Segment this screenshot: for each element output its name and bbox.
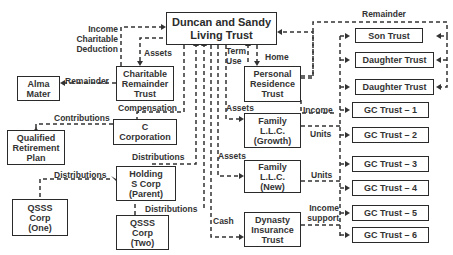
node-label: Daughter Trust <box>362 55 426 65</box>
edge-label-distributions-holding: Distributions <box>132 152 184 162</box>
node-label: QSSS Corp (Two) <box>130 218 155 248</box>
node-gc-trust-3: GC Trust – 3 <box>352 156 429 172</box>
node-label: Dynasty Insurance Trust <box>251 215 294 245</box>
node-gc-trust-2: GC Trust – 2 <box>352 127 429 143</box>
node-label: Qualified Retirement Plan <box>12 133 59 163</box>
edge-label-distributions-two: Distributions <box>145 204 197 214</box>
edge-label-assets-new: Assets <box>218 151 246 161</box>
node-qsss-corp-one: QSSS Corp (One) <box>12 199 68 236</box>
node-family-llc-growth: Family L.L.C. (Growth) <box>244 113 301 148</box>
edge-label-assets-growth: Assets <box>226 103 254 113</box>
node-label: GC Trust – 1 <box>364 105 417 115</box>
node-label: GC Trust – 2 <box>364 130 417 140</box>
node-gc-trust-6: GC Trust – 6 <box>352 227 429 243</box>
edge-label-units-growth: Units <box>310 129 331 139</box>
node-label: Alma Mater <box>26 79 50 99</box>
edge-label-cash: Cash <box>213 216 234 226</box>
node-c-corporation: C Corporation <box>113 119 177 145</box>
node-personal-residence-trust: Personal Residence Trust <box>244 66 301 102</box>
node-label: C Corporation <box>119 122 171 142</box>
node-label: Daughter Trust <box>362 82 426 92</box>
edge-label-assets-crt: Assets <box>144 48 172 58</box>
edge-label-remainder-alma: Remainder <box>65 76 109 86</box>
node-label: GC Trust – 3 <box>364 159 417 169</box>
node-family-llc-new: Family L.L.C. (New) <box>244 160 301 193</box>
edge-label-income-charitable-deduction: Income Charitable Deduction <box>70 24 118 54</box>
edge-label-home: Home <box>265 52 289 62</box>
node-label: Duncan and Sandy Living Trust <box>172 16 271 42</box>
edge-label-contributions: Contributions <box>54 113 110 123</box>
node-living-trust: Duncan and Sandy Living Trust <box>166 12 277 45</box>
node-daughter-trust-2: Daughter Trust <box>355 79 434 95</box>
node-label: GC Trust – 6 <box>364 230 417 240</box>
node-label: Holding S Corp (Parent) <box>129 169 163 199</box>
node-label: Personal Residence Trust <box>250 69 295 99</box>
node-son-trust: Son Trust <box>355 28 423 43</box>
node-label: Family L.L.C. (New) <box>258 162 287 192</box>
node-holding-s-corp: Holding S Corp (Parent) <box>116 166 176 201</box>
edge-label-distributions-one: Distributions <box>54 170 106 180</box>
node-qsss-corp-two: QSSS Corp (Two) <box>116 215 169 250</box>
node-qualified-retirement-plan: Qualified Retirement Plan <box>7 130 65 165</box>
node-dynasty-insurance-trust: Dynasty Insurance Trust <box>244 212 301 247</box>
node-gc-trust-4: GC Trust – 4 <box>352 180 429 196</box>
node-charitable-remainder-trust: Charitable Remainder Trust <box>116 66 174 101</box>
edge-label-units-new: Units <box>311 170 332 180</box>
node-label: GC Trust – 5 <box>364 208 417 218</box>
edge-label-income-prt: Income <box>303 105 333 115</box>
node-label: QSSS Corp (One) <box>27 203 52 233</box>
node-label: Charitable Remainder Trust <box>122 69 169 99</box>
node-label: Son Trust <box>368 31 410 41</box>
node-label: Family L.L.C. (Growth) <box>254 116 292 146</box>
node-label: GC Trust – 4 <box>364 183 417 193</box>
node-gc-trust-5: GC Trust – 5 <box>352 205 429 221</box>
edge-label-remainder-children: Remainder <box>362 9 406 19</box>
node-daughter-trust-1: Daughter Trust <box>355 52 434 68</box>
node-gc-trust-1: GC Trust – 1 <box>352 102 429 118</box>
edge-label-income-support: Income support <box>303 203 339 223</box>
edge-label-term-use: Term Use <box>226 46 246 66</box>
edge-label-compensation: Compensation <box>118 103 177 113</box>
node-alma-mater: Alma Mater <box>17 76 60 101</box>
